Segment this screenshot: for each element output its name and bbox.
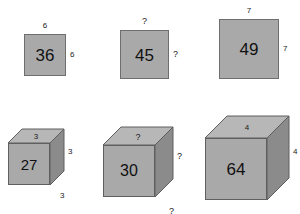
cube-front-face-1: 27: [8, 143, 50, 185]
cube-right-lower-dimension-label-1: 3: [60, 192, 72, 200]
cube-right-upper-dimension-label-1: 3: [68, 148, 80, 156]
square-top-dimension-label-1: 6: [35, 22, 55, 30]
square-area-value-3: 49: [220, 41, 278, 58]
cube-volume-value-1: 27: [9, 157, 49, 172]
square-shape-1: 36: [24, 34, 66, 76]
square-shape-3: 49: [219, 19, 279, 79]
square-right-dimension-label-2: ?: [173, 50, 185, 59]
cube-right-lower-dimension-label-2: ?: [169, 207, 181, 214]
figure-canvas: 36 6 6 45 ? ? 49 7 7 27 3 3 3 30 ? ? ? 6…: [0, 0, 300, 214]
cube-front-face-2: 30: [103, 145, 155, 197]
square-area-value-1: 36: [25, 47, 65, 64]
square-right-dimension-label-1: 6: [70, 51, 82, 59]
cube-right-upper-dimension-label-3: 4: [293, 148, 300, 156]
cube-right-upper-dimension-label-2: ?: [177, 152, 189, 161]
cube-volume-value-2: 30: [104, 163, 154, 179]
square-area-value-2: 45: [121, 46, 168, 63]
cube-front-face-3: 64: [205, 138, 267, 200]
square-top-dimension-label-2: ?: [135, 17, 155, 26]
square-top-dimension-label-3: 7: [239, 7, 259, 15]
square-shape-2: 45: [120, 30, 169, 79]
cube-top-dimension-label-3: 4: [237, 124, 257, 132]
square-right-dimension-label-3: 7: [283, 45, 295, 53]
cube-volume-value-3: 64: [206, 161, 266, 178]
cube-top-dimension-label-2: ?: [128, 133, 148, 142]
cube-top-dimension-label-1: 3: [26, 133, 46, 141]
